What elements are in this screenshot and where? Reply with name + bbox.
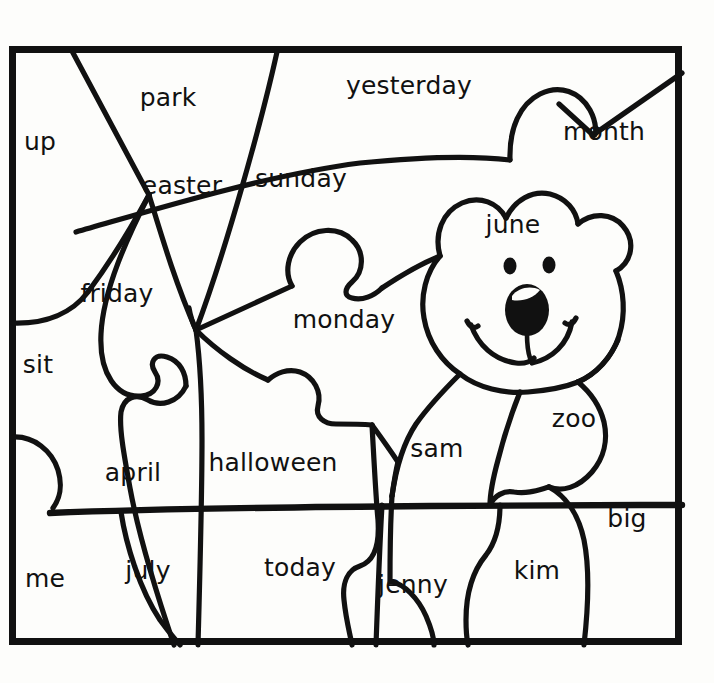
word-kim: kim <box>514 556 560 585</box>
word-easter: easter <box>142 171 223 200</box>
word-friday: friday <box>80 279 153 308</box>
word-month: month <box>563 117 645 146</box>
word-jenny: jenny <box>377 570 448 599</box>
bear-left-eye <box>504 258 517 275</box>
word-july: july <box>124 556 170 585</box>
word-sit: sit <box>23 350 53 379</box>
word-monday: monday <box>293 305 396 334</box>
bear-right-eye <box>543 257 556 274</box>
word-sunday: sunday <box>255 164 347 193</box>
worksheet-page: up park yesterday month easter sunday ju… <box>0 0 714 683</box>
page-background <box>0 0 714 683</box>
word-today: today <box>264 553 336 582</box>
word-june: june <box>485 210 541 239</box>
word-park: park <box>140 83 197 112</box>
word-april: april <box>105 458 161 487</box>
word-yesterday: yesterday <box>346 71 472 100</box>
word-halloween: halloween <box>208 448 337 477</box>
word-up: up <box>24 127 56 156</box>
word-zoo: zoo <box>552 404 596 433</box>
word-me: me <box>25 564 65 593</box>
word-big: big <box>607 504 646 533</box>
word-sam: sam <box>410 434 463 463</box>
puzzle-illustration: up park yesterday month easter sunday ju… <box>0 0 714 683</box>
